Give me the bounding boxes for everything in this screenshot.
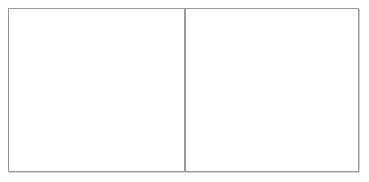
- left-panel: [8, 8, 185, 172]
- particle-diagram-figure: [0, 0, 369, 182]
- right-panel: [185, 8, 359, 172]
